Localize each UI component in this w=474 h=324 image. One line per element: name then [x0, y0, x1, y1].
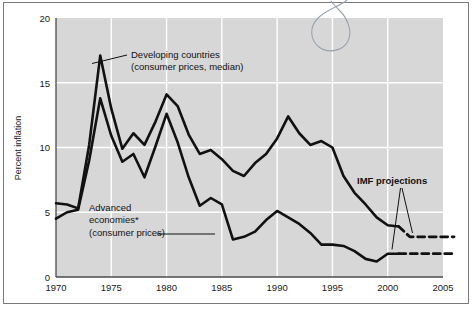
advanced-label-line-1: Advanced — [89, 202, 131, 213]
y-tick-0: 0 — [45, 272, 50, 283]
x-tick-1990: 1990 — [267, 282, 288, 293]
x-tick-2000: 2000 — [377, 282, 398, 293]
y-axis-title: Percent inflation — [13, 116, 23, 181]
x-tick-1980: 1980 — [156, 282, 177, 293]
y-tick-20: 20 — [39, 13, 50, 24]
imf-projections-label: IMF projections — [357, 175, 427, 186]
x-tick-1975: 1975 — [101, 282, 122, 293]
inflation-line-chart: 20 15 10 5 0 1970 1975 1980 1985 1990 19… — [0, 0, 474, 324]
x-tick-1985: 1985 — [211, 282, 232, 293]
y-tick-labels: 20 15 10 5 0 — [39, 13, 50, 283]
x-tick-1970: 1970 — [45, 282, 66, 293]
developing-label-line-2: (consumer prices, median) — [131, 61, 243, 72]
advanced-label-line-3: (consumer prices) — [89, 227, 165, 238]
x-tick-1995: 1995 — [322, 282, 343, 293]
developing-label-line-1: Developing countries — [131, 49, 220, 60]
annotation-imf-projections: IMF projections — [357, 175, 427, 186]
y-tick-5: 5 — [45, 207, 50, 218]
y-tick-10: 10 — [39, 142, 50, 153]
x-tick-labels: 1970 1975 1980 1985 1990 1995 2000 2005 — [45, 282, 453, 293]
advanced-label-line-2: economies* — [89, 214, 139, 225]
x-tick-2005: 2005 — [432, 282, 453, 293]
y-tick-15: 15 — [39, 78, 50, 89]
chart-page: 20 15 10 5 0 1970 1975 1980 1985 1990 19… — [0, 0, 474, 324]
